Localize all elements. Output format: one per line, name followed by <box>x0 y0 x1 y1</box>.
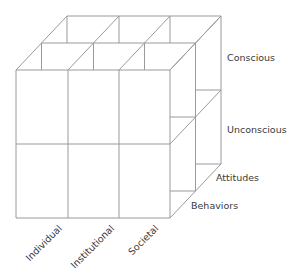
depth-label-behaviors: Behaviors <box>191 201 238 211</box>
row-label-conscious: Conscious <box>227 53 275 63</box>
depth-label-attitudes: Attitudes <box>216 173 259 183</box>
row-label-unconscious: Unconscious <box>227 125 287 135</box>
